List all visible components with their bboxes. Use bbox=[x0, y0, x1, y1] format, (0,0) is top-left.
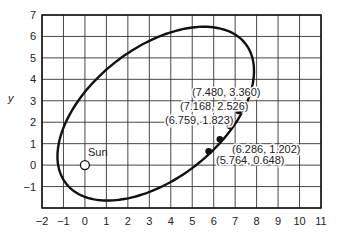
x-tick-label: 6 bbox=[211, 215, 217, 227]
y-tick-label: 3 bbox=[30, 95, 36, 107]
x-tick-label: 10 bbox=[293, 215, 305, 227]
data-point bbox=[217, 136, 224, 143]
sun-label: Sun bbox=[88, 146, 108, 158]
y-tick-label: 0 bbox=[30, 159, 36, 171]
x-tick-label: 8 bbox=[254, 215, 260, 227]
x-tick-label: −2 bbox=[36, 215, 49, 227]
x-tick-label: 5 bbox=[189, 215, 195, 227]
y-tick-label: 2 bbox=[30, 116, 36, 128]
point-label: (6.759, 1.823) bbox=[165, 114, 234, 126]
x-tick-label: 4 bbox=[168, 215, 174, 227]
x-tick-label: 2 bbox=[125, 215, 131, 227]
x-tick-label: 7 bbox=[232, 215, 238, 227]
point-label: (5.764, 0.648) bbox=[216, 154, 285, 166]
point-label: (7.480, 3.360) bbox=[192, 86, 261, 98]
x-tick-label: 1 bbox=[103, 215, 109, 227]
x-tick-label: 3 bbox=[146, 215, 152, 227]
y-tick-label: −1 bbox=[23, 181, 36, 193]
sun-icon bbox=[80, 161, 89, 170]
orbit-chart: −2−101234567891011 −101234567 y Sun (7.4… bbox=[0, 0, 344, 235]
y-tick-label: 4 bbox=[30, 73, 36, 85]
data-points: (7.480, 3.360)(7.168, 2.526)(6.759, 1.82… bbox=[165, 86, 301, 166]
point-label: (7.168, 2.526) bbox=[180, 100, 249, 112]
x-tick-label: 9 bbox=[275, 215, 281, 227]
y-tick-label: 5 bbox=[30, 52, 36, 64]
x-tick-label: 11 bbox=[315, 215, 326, 227]
y-tick-label: 6 bbox=[30, 30, 36, 42]
y-axis-ticks: −101234567 bbox=[23, 9, 36, 193]
y-tick-label: 1 bbox=[30, 138, 36, 150]
x-tick-label: −1 bbox=[57, 215, 70, 227]
y-axis-label: y bbox=[7, 92, 15, 104]
y-tick-label: 7 bbox=[30, 9, 36, 21]
x-axis-ticks: −2−101234567891011 bbox=[36, 215, 327, 227]
x-tick-label: 0 bbox=[82, 215, 88, 227]
data-point bbox=[205, 148, 212, 155]
